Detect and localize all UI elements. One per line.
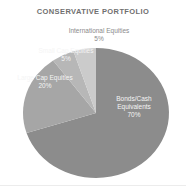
slice-label-pct: 5% [39, 55, 94, 63]
slice-label-pct: 5% [69, 35, 130, 43]
slice-label-name: Large Cap Equities [17, 74, 72, 82]
slice-label-name-line1: Bonds/Cash [116, 95, 151, 103]
slice-label-name: International Equities [69, 27, 130, 35]
chart-area: CONSERVATIVE PORTFOLIO International Equ… [0, 0, 186, 189]
slice-label-name-line2: Equivalents [116, 103, 151, 111]
slice-label-small-cap-equities: Small Cap Equities 5% [39, 47, 94, 63]
slice-label-pct: 70% [116, 111, 151, 119]
slice-label-name: Small Cap Equities [39, 47, 94, 55]
slice-label-international-equities: International Equities 5% [69, 27, 130, 43]
bottom-divider [0, 185, 186, 186]
slice-label-large-cap-equities: Large Cap Equities 20% [17, 74, 72, 90]
slice-label-pct: 20% [17, 82, 72, 90]
slice-label-bonds-cash-equivalents: Bonds/Cash Equivalents 70% [116, 95, 151, 118]
